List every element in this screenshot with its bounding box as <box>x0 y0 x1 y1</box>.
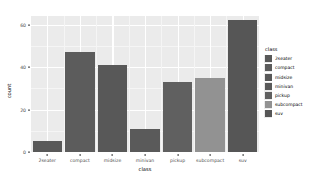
y-axis-tick-labels: 0204060 <box>14 0 26 182</box>
x-axis-tick-label: compact <box>70 158 90 163</box>
x-axis-tick-mark <box>47 154 48 156</box>
bar <box>98 65 127 152</box>
x-axis-tick-mark <box>242 154 243 156</box>
legend-label: midsize <box>275 75 292 80</box>
legend-key <box>264 91 272 99</box>
x-axis-tick-label: subcompact <box>196 158 224 163</box>
legend-item: pickup <box>264 91 312 100</box>
legend-label: suv <box>275 111 283 116</box>
legend-label: minivan <box>275 84 293 89</box>
x-axis-tick-label: 2seater <box>39 158 56 163</box>
bar <box>163 82 192 152</box>
legend-label: pickup <box>275 93 290 98</box>
x-axis-title: class <box>31 166 259 172</box>
legend-items: 2seatercompactmidsizeminivanpickupsubcom… <box>264 55 312 119</box>
bar-chart: count 0204060 2seatercompactmidsizeminiv… <box>0 0 314 182</box>
x-axis-tick-mark <box>112 154 113 156</box>
bar <box>130 129 159 152</box>
legend-key <box>264 110 272 118</box>
y-axis-tick-mark <box>28 24 30 25</box>
legend-swatch <box>265 101 272 108</box>
y-axis-tick-mark <box>28 152 30 153</box>
x-axis-tick-mark <box>79 154 80 156</box>
y-axis-tick-mark <box>28 67 30 68</box>
x-axis-tick-labels: 2seatercompactmidsizeminivanpickupsubcom… <box>31 154 259 166</box>
plot-panel <box>31 16 259 152</box>
legend-title: class <box>265 46 312 52</box>
y-axis-tick-label: 0 <box>23 150 26 155</box>
legend-item: suv <box>264 110 312 119</box>
legend-item: compact <box>264 64 312 73</box>
x-axis-tick-mark <box>210 154 211 156</box>
legend-key <box>264 64 272 72</box>
x-axis-tick-label: suv <box>239 158 247 163</box>
legend-swatch <box>265 64 272 71</box>
y-axis-tick-label: 20 <box>20 107 26 112</box>
legend-item: midsize <box>264 73 312 82</box>
legend-key <box>264 55 272 63</box>
y-axis-tick-label: 60 <box>20 22 26 27</box>
x-axis-tick-label: pickup <box>170 158 185 163</box>
legend-label: subcompact <box>275 102 303 107</box>
x-axis-tick-mark <box>145 154 146 156</box>
legend-label: 2seater <box>275 56 292 61</box>
bar-series <box>31 16 259 152</box>
legend-key <box>264 82 272 90</box>
bar <box>195 78 224 152</box>
legend: class 2seatercompactmidsizeminivanpickup… <box>264 46 312 119</box>
y-axis-tick-label: 40 <box>20 65 26 70</box>
legend-item: 2seater <box>264 55 312 64</box>
y-axis-tick-mark <box>28 109 30 110</box>
legend-swatch <box>265 55 272 62</box>
bar <box>228 20 257 152</box>
legend-key <box>264 73 272 81</box>
legend-key <box>264 101 272 109</box>
legend-swatch <box>265 110 272 117</box>
legend-item: minivan <box>264 82 312 91</box>
x-axis-tick-label: midsize <box>104 158 122 163</box>
legend-swatch <box>265 92 272 99</box>
x-axis-tick-mark <box>177 154 178 156</box>
legend-swatch <box>265 74 272 81</box>
bar <box>65 52 94 152</box>
y-axis-title: count <box>6 84 12 99</box>
legend-label: compact <box>275 65 294 70</box>
x-axis-tick-label: minivan <box>136 158 154 163</box>
legend-item: subcompact <box>264 100 312 109</box>
bar <box>33 141 62 152</box>
legend-swatch <box>265 83 272 90</box>
